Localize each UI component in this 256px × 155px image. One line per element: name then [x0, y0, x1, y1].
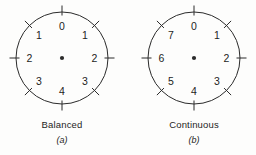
dial-label: 2 [27, 52, 33, 64]
center-dot [60, 56, 64, 60]
center-dot [192, 56, 196, 60]
dial-label: 7 [168, 29, 174, 41]
dial-label: 1 [82, 29, 88, 41]
dial-diagram: 0123432101234567 [0, 0, 256, 155]
dial-label: 0 [59, 20, 65, 32]
dial-label: 1 [214, 29, 220, 41]
dial-label: 4 [59, 85, 65, 97]
dial-label: 6 [159, 52, 165, 64]
dial-label: 2 [224, 52, 230, 64]
dial-label: 1 [36, 29, 42, 41]
dial-label: 4 [191, 85, 197, 97]
dial-label: 3 [214, 75, 220, 87]
dial-label: 3 [82, 75, 88, 87]
dial-label: 5 [168, 75, 174, 87]
dial-label: 3 [36, 75, 42, 87]
dial-balanced: 01234321 [10, 6, 115, 111]
dial-continuous: 01234567 [142, 6, 247, 111]
figure-root: 0123432101234567 Balanced (a) Continuous… [0, 0, 256, 155]
dial-label: 2 [92, 52, 98, 64]
dial-label: 0 [191, 20, 197, 32]
